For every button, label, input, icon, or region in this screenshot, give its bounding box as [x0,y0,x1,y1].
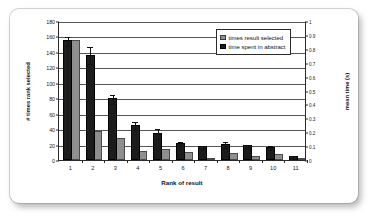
error-bar-cap-upper [65,37,70,38]
x-tick-mark [127,160,128,163]
y-tick-mark-right [305,105,308,106]
y-tick-label-left: 120 [46,65,55,71]
x-tick-label: 6 [181,165,184,171]
y-tick-label-right: 0.2 [309,131,315,136]
y-tick-label-left: 160 [46,34,55,40]
x-tick-mark [284,160,285,163]
bar-times-result-selected [161,149,170,160]
error-bar-cap-upper [155,129,160,130]
y-tick-label-right: 0.5 [309,89,315,94]
y-tick-mark-right [305,147,308,148]
y-tick-label-right: 0.7 [309,61,315,66]
y-tick-label-left: 60 [49,112,55,118]
y-tick-mark-left [56,68,59,69]
error-bar [158,129,159,138]
error-bar-cap-lower [178,146,183,147]
error-bar-cap-lower [65,46,70,47]
legend-item-time-spent-in-abstract: time spent in abstract [220,42,286,51]
bar-times-result-selected [229,153,238,160]
bar-times-result-selected [116,138,125,160]
y-axis-label-left: # times rank selected [23,22,33,161]
y-tick-mark-left [56,37,59,38]
y-tick-label-left: 100 [46,81,55,87]
x-tick-mark [239,160,240,163]
error-bar-cap-lower [110,104,115,105]
y-tick-label-left: 140 [46,50,55,56]
x-tick-mark [262,160,263,163]
y-tick-mark-right [305,35,308,36]
figure-card: # times rank selected mean time (s) Rank… [10,9,358,203]
error-bar-cap-lower [223,148,228,149]
error-bar [90,47,91,64]
error-bar-cap-upper [200,146,205,147]
y-tick-mark-left [56,22,59,23]
error-bar-cap-upper [245,145,250,146]
y-tick-label-right: 0.1 [309,145,315,150]
error-bar-cap-lower [155,139,160,140]
y-tick-label-right: 0 [309,159,312,164]
x-tick-label: 10 [270,165,276,171]
error-bar-cap-lower [87,64,92,65]
x-tick-label: 9 [249,165,252,171]
error-bar-cap-lower [132,130,137,131]
y-tick-mark-left [56,83,59,84]
y-tick-mark-right [305,119,308,120]
legend-label: times result selected [229,35,284,41]
bar-time-spent-in-abstract [108,98,117,160]
x-tick-label: 3 [114,165,117,171]
bar-times-result-selected [138,151,147,160]
bar-time-spent-in-abstract [86,55,95,160]
x-tick-label: 7 [204,165,207,171]
error-bar [135,122,136,130]
x-tick-mark [172,160,173,163]
gridline [59,22,305,23]
legend-item-times-result-selected: times result selected [220,33,286,42]
bar-times-result-selected [296,158,305,160]
y-tick-label-right: 0.6 [309,75,315,80]
y-tick-label-right: 0.8 [309,47,315,52]
gridline [59,84,305,85]
error-bar-cap-upper [223,142,228,143]
y-tick-label-right: 0.4 [309,103,315,108]
error-bar-cap-upper [290,156,295,157]
y-tick-mark-right [305,77,308,78]
y-tick-mark-left [56,52,59,53]
y-tick-label-right: 1 [309,20,312,25]
bar-times-result-selected [93,131,102,160]
bar-times-result-selected [206,158,215,160]
error-bar-cap-lower [245,148,250,149]
x-tick-mark [217,160,218,163]
y-tick-mark-right [305,22,308,23]
error-bar-cap-lower [268,150,273,151]
y-tick-mark-right [305,91,308,92]
y-tick-label-right: 0.3 [309,117,315,122]
error-bar [113,95,114,104]
y-tick-mark-left [56,99,59,100]
chart-legend: times result selected time spent in abst… [216,29,291,55]
error-bar-cap-upper [87,47,92,48]
error-bar-cap-lower [200,149,205,150]
error-bar-cap-lower [290,159,295,160]
y-axis-label-right: mean time (s) [342,22,352,161]
error-bar-cap-upper [268,146,273,147]
x-tick-mark [82,160,83,163]
x-tick-mark [307,160,308,163]
legend-label: time spent in abstract [229,44,286,50]
y-tick-mark-left [56,145,59,146]
x-tick-mark [194,160,195,163]
bar-times-result-selected [274,154,283,160]
x-tick-mark [149,160,150,163]
gridline [59,68,305,69]
y-tick-mark-right [305,133,308,134]
bar-time-spent-in-abstract [63,40,72,160]
x-tick-label: 8 [227,165,230,171]
gray-swatch-icon [220,35,226,41]
y-tick-mark-right [305,63,308,64]
bar-times-result-selected [71,40,80,160]
black-swatch-icon [220,44,226,50]
bar-times-result-selected [184,152,193,160]
y-tick-label-left: 180 [46,19,55,25]
gridline [59,99,305,100]
y-tick-mark-right [305,49,308,50]
x-tick-mark [104,160,105,163]
